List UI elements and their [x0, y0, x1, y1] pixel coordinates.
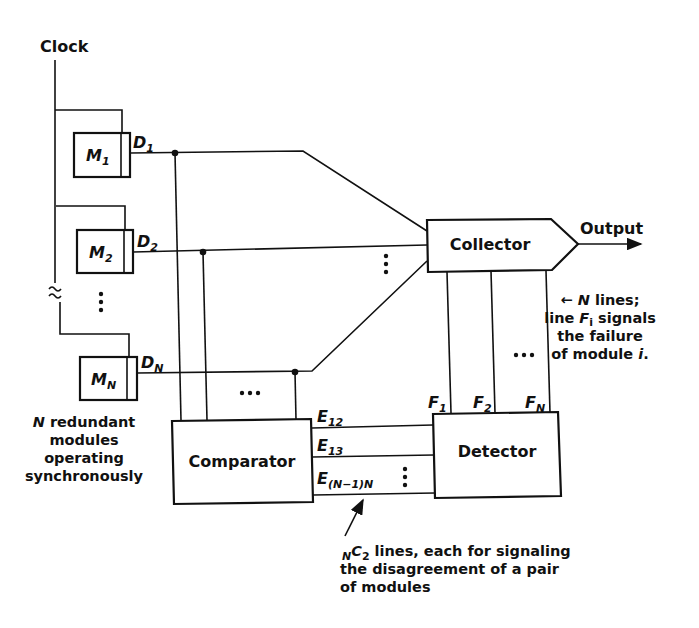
more-e-lines-ellipsis [403, 467, 407, 487]
f1-label: F1 [428, 393, 447, 415]
failure-lines [447, 271, 550, 413]
module-mn: MN [80, 357, 137, 400]
more-taps-ellipsis [240, 391, 260, 395]
svg-text:operating: operating [44, 450, 124, 466]
svg-text:modules: modules [49, 432, 118, 448]
modules-caption: N redundant modules operating synchronou… [25, 414, 144, 484]
svg-text:synchronously: synchronously [25, 468, 144, 484]
output-d1-label: D1 [133, 133, 154, 155]
collector-label: Collector [450, 235, 531, 254]
f2-label: F2 [473, 393, 492, 415]
data-lines [130, 151, 427, 373]
svg-text:N redundant: N redundant [33, 414, 136, 430]
svg-text:of modules: of modules [340, 579, 431, 595]
clock-line [55, 60, 129, 357]
svg-text:line Fi signals: line Fi signals [544, 310, 656, 329]
comparator-block: Comparator [172, 419, 313, 504]
f-lines-note: ← N lines; line Fi signals the failure o… [544, 292, 656, 362]
module-label: M [86, 146, 102, 165]
comparator-label: Comparator [189, 452, 296, 471]
svg-text:the failure: the failure [557, 328, 643, 344]
fault-tolerant-system-diagram: Clock M1 D1 M2 D2 MN DN N redundant m [0, 0, 699, 628]
svg-text:NC2 lines, each for signaling: NC2 lines, each for signaling [342, 543, 571, 563]
line-break-icon [49, 287, 61, 298]
svg-text:← N lines;: ← N lines; [561, 292, 640, 308]
module-m1: M1 [74, 133, 130, 177]
output-label: Output [580, 219, 643, 238]
en-label: E(N−1)N [317, 469, 373, 491]
more-f-lines-ellipsis [514, 353, 534, 357]
comparator-taps [172, 150, 299, 420]
e13-label: E13 [317, 436, 344, 458]
svg-text:of module i.: of module i. [551, 346, 648, 362]
more-modules-ellipsis [99, 292, 103, 312]
collector-block: Collector [427, 219, 578, 272]
output-dn-label: DN [141, 353, 164, 375]
clock-label: Clock [40, 37, 89, 56]
e-lines-pointer-arrow [345, 500, 363, 536]
svg-text:the disagreement of a pair: the disagreement of a pair [340, 561, 560, 577]
detector-label: Detector [458, 442, 537, 461]
e-lines-note: NC2 lines, each for signaling the disagr… [340, 543, 571, 595]
more-inputs-ellipsis [384, 254, 388, 274]
e12-label: E12 [317, 407, 344, 429]
module-sub: 1 [102, 155, 110, 168]
module-m2: M2 [77, 230, 133, 273]
detector-block: Detector [433, 412, 561, 498]
